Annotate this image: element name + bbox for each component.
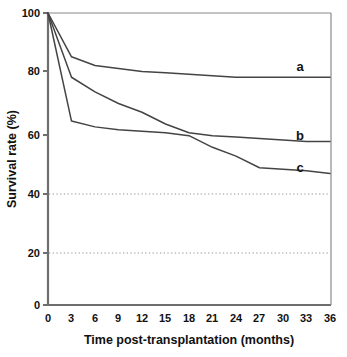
- chart-canvas: 100 80 60 40 20 0 0 3 6 9 12 15 18 21 24…: [0, 0, 347, 357]
- survival-curve-c: [48, 13, 330, 174]
- y-tick-label-80: 80: [28, 65, 40, 77]
- survival-curve-chart: 100 80 60 40 20 0 0 3 6 9 12 15 18 21 24…: [0, 0, 347, 357]
- x-tick-label-36: 36: [324, 312, 336, 324]
- y-tick-labels: 100 80 60 40 20 0: [22, 7, 40, 311]
- x-tick-label-24: 24: [230, 312, 243, 324]
- x-tick-label-15: 15: [159, 312, 171, 324]
- x-tick-label-3: 3: [68, 312, 74, 324]
- x-tick-label-33: 33: [300, 312, 312, 324]
- x-tick-label-9: 9: [115, 312, 121, 324]
- survival-curve-a: [48, 13, 330, 77]
- series-label-c: c: [296, 160, 303, 175]
- y-tick-label-60: 60: [28, 129, 40, 141]
- plot-frame: [48, 13, 331, 305]
- x-tick-label-18: 18: [183, 312, 195, 324]
- series-curves: [48, 13, 330, 174]
- x-tick-label-12: 12: [136, 312, 148, 324]
- y-tick-label-40: 40: [28, 188, 40, 200]
- x-tick-labels: 0 3 6 9 12 15 18 21 24 27 30 33 36: [45, 312, 336, 324]
- series-labels: a b c: [296, 59, 304, 175]
- y-tick-label-0: 0: [34, 299, 40, 311]
- y-tick-label-20: 20: [28, 247, 40, 259]
- series-label-b: b: [296, 128, 304, 143]
- x-axis-title: Time post-transplantation (months): [84, 333, 294, 347]
- x-tick-label-27: 27: [253, 312, 265, 324]
- x-tick-label-30: 30: [277, 312, 289, 324]
- x-tick-label-6: 6: [92, 312, 98, 324]
- x-tick-label-21: 21: [206, 312, 218, 324]
- x-tick-label-0: 0: [45, 312, 51, 324]
- y-axis-title: Survival rate (%): [5, 110, 19, 208]
- series-label-a: a: [296, 59, 304, 74]
- reference-gridlines: [49, 194, 330, 253]
- y-tick-label-100: 100: [22, 7, 40, 19]
